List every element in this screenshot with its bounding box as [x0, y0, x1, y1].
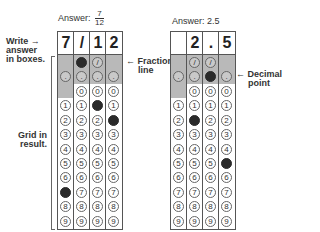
digit-bubble-8[interactable]: 8	[221, 201, 232, 212]
digit-bubble-2[interactable]: 2	[92, 115, 103, 126]
digit-bubble-9[interactable]: 9	[60, 216, 71, 227]
digit-bubble-0[interactable]: 0	[205, 86, 216, 97]
digit-bubble-5[interactable]: 5	[205, 158, 216, 169]
digit-bubble-4[interactable]: 4	[76, 144, 87, 155]
digit-bubble-0[interactable]: 0	[221, 86, 232, 97]
digit-bubble-6[interactable]: 6	[173, 172, 184, 183]
digit-bubble-6[interactable]: 6	[205, 172, 216, 183]
digit-bubble-4[interactable]: 4	[189, 144, 200, 155]
digit-bubble-2[interactable]: 2	[189, 115, 200, 126]
digit-bubble-2[interactable]: 2	[173, 115, 184, 126]
answer-box[interactable]: 2	[187, 32, 203, 54]
digit-bubble-8[interactable]: 8	[92, 201, 103, 212]
decimal-bubble[interactable]: .	[108, 71, 119, 82]
digit-bubble-9[interactable]: 9	[221, 216, 232, 227]
digit-bubble-2[interactable]: 2	[108, 115, 119, 126]
digit-bubble-6[interactable]: 6	[76, 172, 87, 183]
digit-bubble-6[interactable]: 6	[221, 172, 232, 183]
digit-bubble-9[interactable]: 9	[173, 216, 184, 227]
digit-bubble-8[interactable]: 8	[60, 201, 71, 212]
digit-bubble-6[interactable]: 6	[189, 172, 200, 183]
slash-bubble[interactable]: /	[189, 57, 200, 68]
digit-bubble-4[interactable]: 4	[205, 144, 216, 155]
decimal-bubble[interactable]: .	[205, 71, 216, 82]
digit-bubble-1[interactable]: 1	[221, 100, 232, 111]
digit-bubble-3[interactable]: 3	[60, 129, 71, 140]
digit-bubble-4[interactable]: 4	[60, 144, 71, 155]
digit-bubble-9[interactable]: 9	[189, 216, 200, 227]
digit-bubble-1[interactable]: 1	[76, 100, 87, 111]
digit-bubble-1[interactable]: 1	[92, 100, 103, 111]
digit-bubble-5[interactable]: 5	[173, 158, 184, 169]
digit-bubble-5[interactable]: 5	[221, 158, 232, 169]
digit-bubble-3[interactable]: 3	[92, 129, 103, 140]
decimal-bubble[interactable]: .	[60, 71, 71, 82]
digit-bubble-2[interactable]: 2	[221, 115, 232, 126]
digit-bubble-2[interactable]: 2	[60, 115, 71, 126]
answer-box[interactable]: .	[203, 32, 219, 54]
digit-bubble-6[interactable]: 6	[108, 172, 119, 183]
digit-bubble-8[interactable]: 8	[76, 201, 87, 212]
digit-bubble-2[interactable]: 2	[76, 115, 87, 126]
slash-bubble[interactable]: /	[76, 57, 87, 68]
digit-bubble-3[interactable]: 3	[205, 129, 216, 140]
digit-bubble-1[interactable]: 1	[60, 100, 71, 111]
digit-bubble-1[interactable]: 1	[173, 100, 184, 111]
slash-bubble[interactable]: /	[92, 57, 103, 68]
digit-bubble-2[interactable]: 2	[205, 115, 216, 126]
digit-bubble-0[interactable]: 0	[76, 86, 87, 97]
digit-bubble-7[interactable]: 7	[189, 187, 200, 198]
digit-bubble-3[interactable]: 3	[221, 129, 232, 140]
decimal-bubble[interactable]: .	[92, 71, 103, 82]
digit-bubble-1[interactable]: 1	[189, 100, 200, 111]
digit-bubble-0[interactable]: 0	[92, 86, 103, 97]
digit-bubble-8[interactable]: 8	[205, 201, 216, 212]
answer-box[interactable]: 5	[219, 32, 235, 54]
digit-bubble-4[interactable]: 4	[221, 144, 232, 155]
decimal-bubble[interactable]: .	[173, 71, 184, 82]
answer-box[interactable]	[171, 32, 187, 54]
digit-bubble-3[interactable]: 3	[76, 129, 87, 140]
digit-bubble-7[interactable]: 7	[76, 187, 87, 198]
digit-bubble-4[interactable]: 4	[108, 144, 119, 155]
right-answer-grid: .1234567892/.0123456789./.01234567895.01…	[170, 31, 236, 230]
answer-box[interactable]: /	[74, 32, 90, 54]
digit-bubble-7[interactable]: 7	[205, 187, 216, 198]
digit-bubble-6[interactable]: 6	[60, 172, 71, 183]
digit-bubble-5[interactable]: 5	[189, 158, 200, 169]
digit-bubble-3[interactable]: 3	[189, 129, 200, 140]
decimal-bubble[interactable]: .	[189, 71, 200, 82]
answer-box[interactable]: 7	[58, 32, 74, 54]
digit-bubble-0[interactable]: 0	[108, 86, 119, 97]
decimal-point-note: ← Decimal point	[236, 70, 282, 88]
answer-box[interactable]: 2	[106, 32, 122, 54]
digit-bubble-5[interactable]: 5	[76, 158, 87, 169]
digit-bubble-8[interactable]: 8	[108, 201, 119, 212]
digit-bubble-7[interactable]: 7	[173, 187, 184, 198]
digit-bubble-7[interactable]: 7	[108, 187, 119, 198]
digit-bubble-8[interactable]: 8	[189, 201, 200, 212]
digit-bubble-7[interactable]: 7	[221, 187, 232, 198]
digit-bubble-6[interactable]: 6	[92, 172, 103, 183]
digit-bubble-5[interactable]: 5	[60, 158, 71, 169]
digit-bubble-4[interactable]: 4	[173, 144, 184, 155]
digit-bubble-7[interactable]: 7	[60, 187, 71, 198]
digit-bubble-9[interactable]: 9	[76, 216, 87, 227]
digit-bubble-3[interactable]: 3	[108, 129, 119, 140]
digit-bubble-5[interactable]: 5	[108, 158, 119, 169]
answer-box[interactable]: 1	[90, 32, 106, 54]
decimal-bubble[interactable]: .	[221, 71, 232, 82]
digit-bubble-1[interactable]: 1	[108, 100, 119, 111]
digit-bubble-5[interactable]: 5	[92, 158, 103, 169]
digit-bubble-4[interactable]: 4	[92, 144, 103, 155]
digit-bubble-1[interactable]: 1	[205, 100, 216, 111]
digit-bubble-8[interactable]: 8	[173, 201, 184, 212]
digit-bubble-9[interactable]: 9	[92, 216, 103, 227]
digit-bubble-3[interactable]: 3	[173, 129, 184, 140]
digit-bubble-9[interactable]: 9	[108, 216, 119, 227]
digit-bubble-7[interactable]: 7	[92, 187, 103, 198]
decimal-bubble[interactable]: .	[76, 71, 87, 82]
digit-bubble-0[interactable]: 0	[189, 86, 200, 97]
digit-bubble-9[interactable]: 9	[205, 216, 216, 227]
slash-bubble[interactable]: /	[205, 57, 216, 68]
